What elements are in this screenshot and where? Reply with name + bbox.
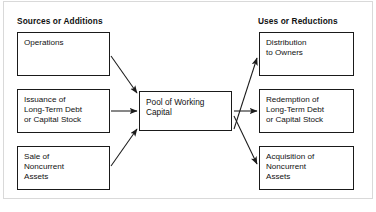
arrow-pool-to-distribution bbox=[234, 58, 257, 129]
node-box-acquisition: Acquisition of Noncurrent Assets bbox=[259, 146, 354, 190]
working-capital-diagram: Sources or Additions Uses or Reductions … bbox=[0, 0, 376, 212]
arrow-pool-to-acquisition bbox=[234, 116, 257, 164]
node-box-pool-of-working-capital: Pool of Working Capital bbox=[139, 91, 232, 131]
node-box-operations: Operations bbox=[17, 32, 110, 76]
node-box-distribution: Distribution to Owners bbox=[259, 32, 354, 76]
column-heading-sources: Sources or Additions bbox=[17, 16, 103, 26]
node-box-redemption: Redemption of Long-Term Debt or Capital … bbox=[259, 89, 354, 133]
arrow-operations-to-pool bbox=[111, 56, 137, 93]
node-box-issuance: Issuance of Long-Term Debt or Capital St… bbox=[17, 89, 110, 133]
column-heading-uses: Uses or Reductions bbox=[258, 16, 338, 26]
node-box-sale: Sale of Noncurrent Assets bbox=[17, 146, 110, 190]
arrow-sale-to-pool bbox=[111, 129, 137, 166]
